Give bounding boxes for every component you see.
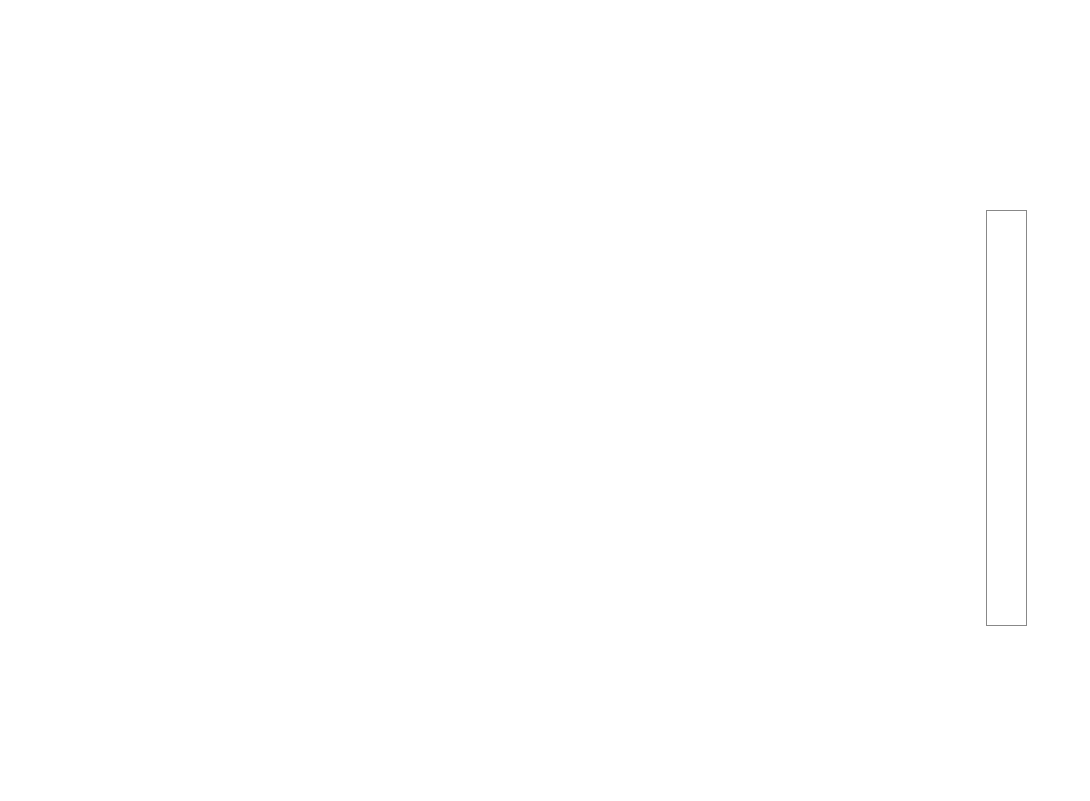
colorbar — [986, 210, 1027, 626]
